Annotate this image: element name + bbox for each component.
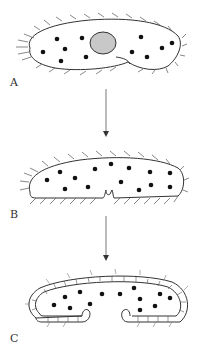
stage-b-cell xyxy=(29,158,183,198)
stage-c-cell xyxy=(29,276,188,322)
stage-label-a: A xyxy=(10,76,18,89)
stage-a-cell xyxy=(29,19,180,69)
diagram-canvas xyxy=(0,0,201,354)
arrow-b-to-c xyxy=(103,216,109,261)
nucleus xyxy=(90,32,116,54)
stage-label-b: B xyxy=(10,208,18,221)
stage-label-c: C xyxy=(10,332,18,345)
arrow-a-to-b xyxy=(103,89,109,137)
